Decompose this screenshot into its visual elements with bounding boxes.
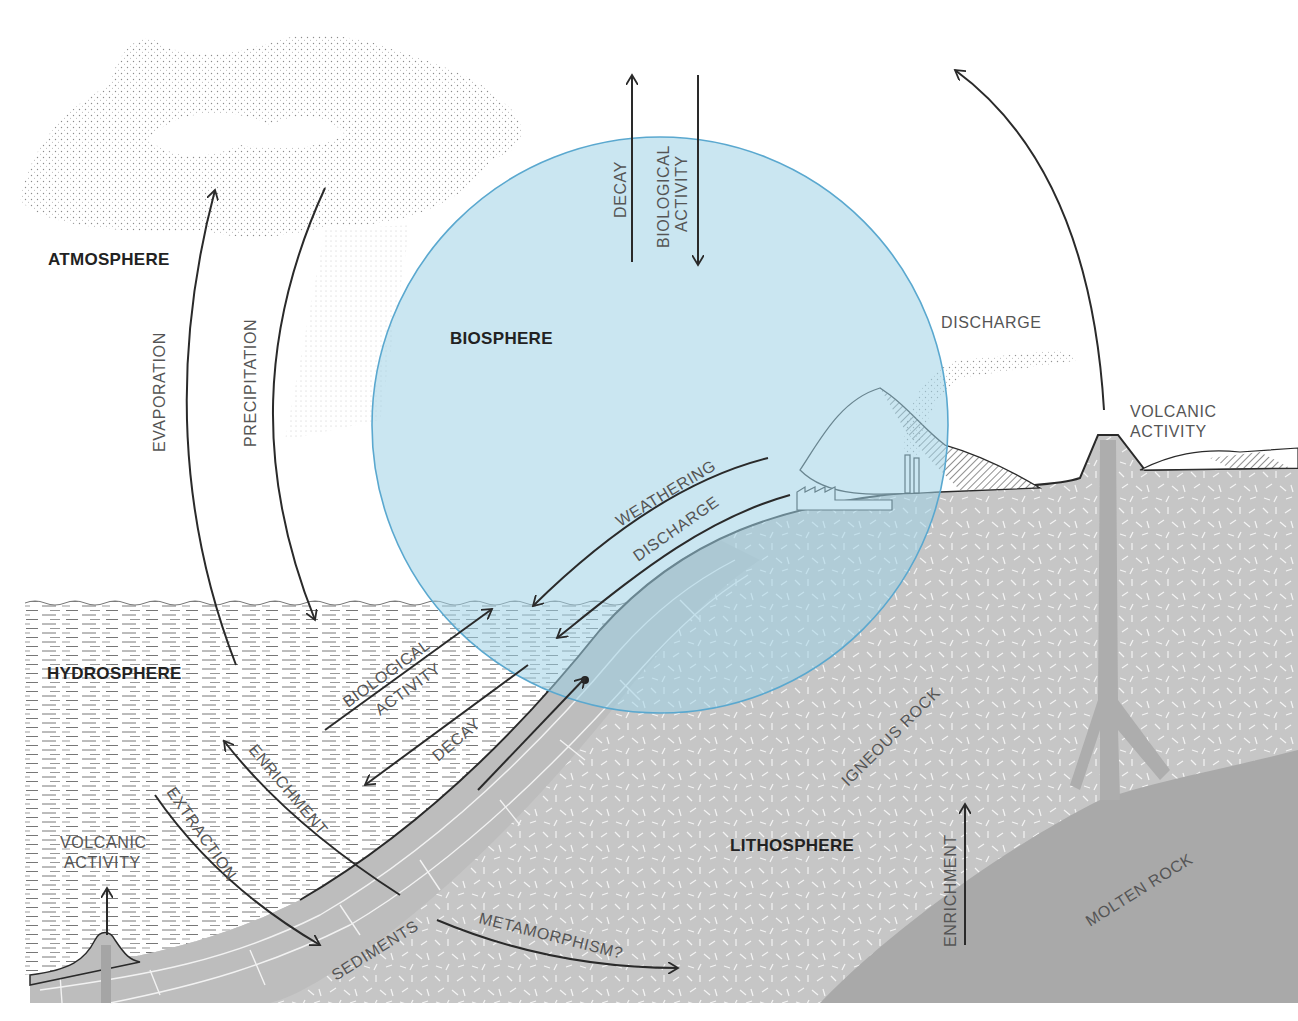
label-biosphere: BIOSPHERE	[450, 329, 553, 348]
label-hydrosphere: HYDROSPHERE	[47, 664, 182, 683]
label-volcanic-activity-right-2: ACTIVITY	[1130, 423, 1207, 440]
label-biological-activity-top-1: BIOLOGICAL	[655, 145, 672, 248]
label-precipitation: PRECIPITATION	[242, 319, 259, 447]
label-discharge-air: DISCHARGE	[941, 314, 1042, 331]
biogeochemical-cycle-diagram: ATMOSPHERE BIOSPHERE HYDROSPHERE LITHOSP…	[0, 0, 1298, 1021]
label-evaporation: EVAPORATION	[151, 332, 168, 452]
label-decay-top: DECAY	[612, 161, 629, 218]
label-lithosphere: LITHOSPHERE	[730, 836, 854, 855]
label-biological-activity-top-2: ACTIVITY	[673, 155, 690, 232]
label-volcanic-activity-right-1: VOLCANIC	[1130, 403, 1217, 420]
label-enrichment-magma: ENRICHMENT	[942, 834, 959, 947]
label-volcanic-activity-left-1: VOLCANIC	[60, 834, 147, 851]
label-atmosphere: ATMOSPHERE	[48, 250, 170, 269]
cloud-stipple	[20, 35, 521, 237]
label-volcanic-activity-left-2: ACTIVITY	[64, 854, 141, 871]
